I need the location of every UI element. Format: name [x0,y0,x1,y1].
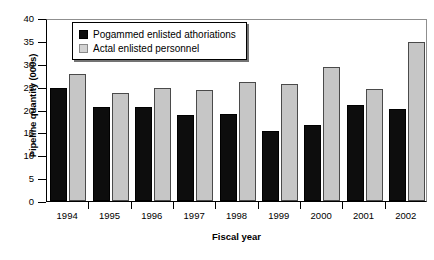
legend-item-programmed: Pogammed enlisted athoriations [79,27,236,41]
legend-item-actual: Actal enlisted personnel [79,41,236,55]
y-axis-tick-label: 25 [4,82,34,93]
bar-actual-1996 [154,88,171,201]
y-axis-tick [38,65,46,66]
bar-programmed-2002 [389,109,406,201]
bar-actual-2002 [408,42,425,201]
y-axis-tick-label: 30 [4,59,34,70]
bar-programmed-1994 [50,88,67,201]
y-axis-tick-label: 0 [4,196,34,207]
bar-actual-1995 [112,93,129,201]
legend-swatch-programmed-icon [79,30,88,39]
x-axis-tick [215,202,216,209]
legend: Pogammed enlisted athoriations Actal enl… [72,22,247,60]
bar-programmed-2000 [304,125,321,201]
y-axis-tick-label: 5 [4,173,34,184]
y-axis-tick [38,88,46,89]
y-axis-tick [38,156,46,157]
bar-actual-1998 [239,82,256,201]
y-axis-tick [38,202,46,203]
bar-actual-2000 [323,67,340,202]
bar-programmed-1995 [93,107,110,201]
x-axis-tick [258,202,259,209]
x-axis-tick [88,202,89,209]
y-axis-tick [38,42,46,43]
x-axis-tick [342,202,343,209]
bar-programmed-1997 [177,115,194,201]
bar-group [347,20,383,201]
y-axis-tick [38,133,46,134]
bar-programmed-1996 [135,107,152,201]
y-axis-tick-label: 40 [4,13,34,24]
bar-programmed-2001 [347,105,364,201]
legend-swatch-actual-icon [79,44,88,53]
bar-group [262,20,298,201]
legend-label-programmed: Pogammed enlisted athoriations [93,29,236,40]
x-axis-tick [173,202,174,209]
x-axis-tick [300,202,301,209]
bar-group [304,20,340,201]
bar-actual-2001 [366,89,383,201]
y-axis-tick-label: 10 [4,150,34,161]
y-axis-tick [38,19,46,20]
bar-programmed-1998 [220,114,237,201]
y-axis-tick [38,111,46,112]
bar-chart: Pipeline quantity (000s) 403530252015105… [0,0,434,260]
x-axis-tick [385,202,386,209]
legend-label-actual: Actal enlisted personnel [93,43,199,54]
x-axis-tick [131,202,132,209]
bar-group [389,20,425,201]
bar-actual-1994 [69,74,86,201]
bar-actual-1997 [196,90,213,201]
y-axis-tick-label: 15 [4,127,34,138]
x-axis-title: Fiscal year [46,231,427,242]
bar-programmed-1999 [262,131,279,201]
bar-actual-1999 [281,84,298,201]
y-axis-tick [38,179,46,180]
y-axis-tick-label: 20 [4,105,34,116]
x-axis-tick-label: 2002 [381,210,431,221]
y-axis-tick-label: 35 [4,36,34,47]
